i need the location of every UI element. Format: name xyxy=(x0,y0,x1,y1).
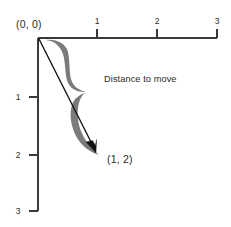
destination-point-label: (1, 2) xyxy=(107,154,133,165)
y-axis-tick-label-3: 3 xyxy=(16,206,21,216)
origin-point-label: (0, 0) xyxy=(16,19,42,30)
y-axis-tick-label-1: 1 xyxy=(16,92,21,102)
distance-to-move-label: Distance to move xyxy=(104,75,177,84)
coordinate-axes-figure: 1 2 3 1 2 3 xyxy=(0,0,231,227)
x-axis-tick-label-1: 1 xyxy=(95,16,100,26)
coordinate-diagram-canvas: 1 2 3 1 2 3 (0, 0) Distance to move (1, … xyxy=(0,0,231,227)
x-axis-tick-label-2: 2 xyxy=(155,16,160,26)
distance-brace-icon xyxy=(46,40,99,155)
y-axis-tick-label-2: 2 xyxy=(16,150,21,160)
x-axis-tick-label-3: 3 xyxy=(215,16,220,26)
